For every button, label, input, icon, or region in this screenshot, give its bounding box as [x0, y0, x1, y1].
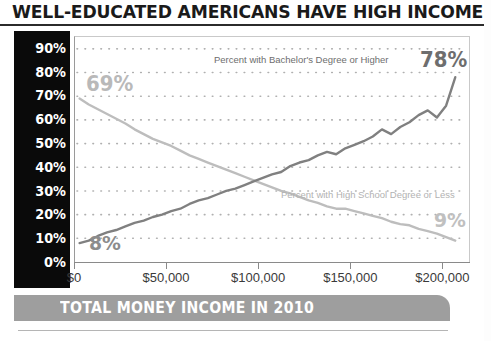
value-label-bachelors-start: 8%	[89, 231, 121, 255]
x-axis-tick-label: $200,000	[415, 270, 469, 285]
y-axis-tick-label: 50%	[18, 136, 66, 150]
x-axis-line	[74, 262, 470, 263]
x-axis-tick-label: $0	[67, 270, 81, 285]
x-axis-tick-label: $150,000	[323, 270, 377, 285]
footer-banner-label: TOTAL MONEY INCOME IN 2010	[60, 299, 314, 317]
value-label-highschool-end: 9%	[434, 208, 466, 232]
x-axis-tick-label: $100,000	[231, 270, 285, 285]
right-margin	[484, 0, 491, 341]
x-axis-tick-mark	[166, 262, 167, 269]
series-label-highschool: Percent with High School Degree or Less	[281, 189, 455, 200]
x-axis-tick-mark	[74, 262, 75, 269]
footer-divider	[18, 330, 448, 331]
page-title: WELL-EDUCATED AMERICANS HAVE HIGH INCOME…	[12, 1, 449, 23]
y-axis-tick-label: 20%	[18, 207, 66, 221]
y-axis-tick-label: 10%	[18, 231, 66, 245]
x-axis-tick-mark	[442, 262, 443, 269]
x-axis-tick-label: $50,000	[143, 270, 190, 285]
y-axis-tick-label: 0%	[18, 255, 66, 269]
value-label-highschool-start: 69%	[86, 72, 133, 96]
title-divider	[0, 24, 484, 26]
plot-area	[74, 36, 470, 262]
y-axis-tick-label: 60%	[18, 112, 66, 126]
value-label-bachelors-end: 78%	[420, 48, 467, 72]
x-axis-tick-mark	[350, 262, 351, 269]
y-axis-tick-label: 90%	[18, 41, 66, 55]
y-axis-tick-label: 30%	[18, 184, 66, 198]
x-axis-tick-mark	[258, 262, 259, 269]
series-label-bachelors: Percent with Bachelor's Degree or Higher	[214, 54, 388, 65]
series-line	[80, 99, 456, 241]
y-axis-tick-label: 70%	[18, 88, 66, 102]
series-lines	[75, 37, 469, 262]
y-axis-tick-label: 80%	[18, 65, 66, 79]
y-axis-tick-label: 40%	[18, 160, 66, 174]
series-line	[80, 77, 456, 243]
chart-page: WELL-EDUCATED AMERICANS HAVE HIGH INCOME…	[0, 0, 491, 341]
